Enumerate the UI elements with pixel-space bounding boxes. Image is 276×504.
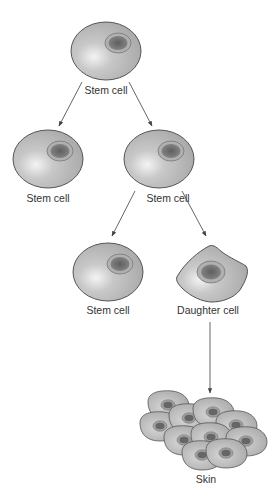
stem-cell-mid-left: [13, 130, 83, 188]
arrow-top-to-right: [129, 82, 152, 126]
label-stem-top: Stem cell: [84, 84, 127, 96]
stem-cell-mid-right: [124, 130, 194, 188]
stem-cell-bottom: [73, 243, 143, 301]
label-stem-mid-left: Stem cell: [26, 192, 69, 204]
skin-tissue: [140, 391, 267, 470]
daughter-cell: [177, 245, 248, 302]
arrow-mid-to-stem: [112, 191, 135, 236]
arrow-top-to-left: [59, 82, 82, 126]
label-daughter: Daughter cell: [177, 304, 239, 316]
diagram-canvas: [0, 0, 276, 504]
label-stem-bottom: Stem cell: [86, 304, 129, 316]
label-stem-mid-right: Stem cell: [146, 192, 189, 204]
stem-cell-top: [71, 22, 141, 80]
label-skin: Skin: [196, 473, 216, 485]
